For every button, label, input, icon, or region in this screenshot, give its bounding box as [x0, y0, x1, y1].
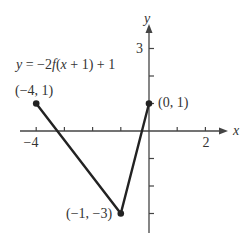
- point-label-0-1: (0, 1): [158, 95, 189, 111]
- function-curve: [36, 104, 149, 214]
- point-label-neg4-1: (−4, 1): [15, 83, 54, 99]
- y-axis: [146, 24, 153, 233]
- x-axis: [20, 128, 228, 135]
- x-tick-label-2: 2: [203, 135, 210, 150]
- data-point: [118, 210, 125, 217]
- x-axis-arrow-icon: [219, 128, 228, 135]
- graph-canvas: x y −4 2 3 (−4, 1) (−1, −3) (0, 1) y = −…: [0, 0, 248, 233]
- data-point: [33, 100, 40, 107]
- y-axis-label: y: [142, 11, 151, 26]
- function-equation-label: y = −2f(x + 1) + 1: [14, 57, 115, 73]
- data-point: [146, 100, 153, 107]
- x-tick-label-neg4: −4: [24, 135, 39, 150]
- x-axis-label: x: [232, 123, 240, 138]
- y-tick-label-3: 3: [136, 41, 143, 56]
- point-label-neg1-neg3: (−1, −3): [66, 206, 112, 222]
